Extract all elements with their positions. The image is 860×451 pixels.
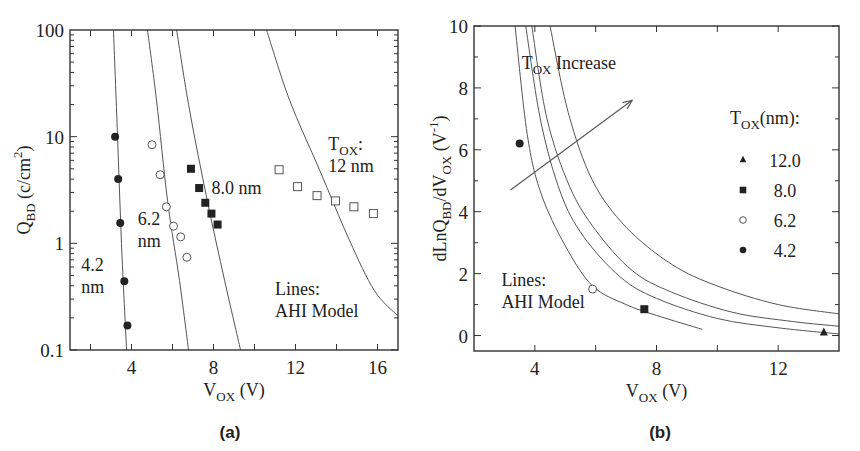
tox-increase-label: TOX Increase (522, 53, 616, 77)
marker-filled-circle (120, 277, 128, 285)
annotation-lines-note: Lines: (501, 270, 546, 290)
marker-filled-square (201, 199, 209, 207)
y-tick-label: 0 (459, 326, 469, 347)
x-tick-label: 8 (652, 358, 662, 379)
marker-open-circle (156, 171, 164, 179)
y-axis-title: QBD (c/cm2) (10, 145, 38, 234)
x-tick-label: 4 (127, 357, 137, 378)
marker-filled-triangle (820, 327, 828, 335)
marker-open-circle (170, 222, 178, 230)
annotation-label-42: 4.2 (81, 255, 104, 275)
y-tick-label: 10 (449, 16, 468, 37)
annotation-lines-note: AHI Model (501, 292, 585, 312)
x-tick-label: 4 (530, 358, 540, 379)
marker-filled-square (187, 165, 195, 173)
legend-entry-label: 4.2 (774, 241, 797, 261)
marker-filled-square (195, 184, 203, 192)
marker-open-circle (162, 203, 170, 211)
model-line (147, 30, 188, 350)
marker-filled-triangle (740, 156, 747, 163)
marker-open-circle (183, 253, 191, 261)
y-tick-label: 2 (459, 264, 469, 285)
x-tick-label: 8 (209, 357, 219, 378)
marker-open-circle (148, 141, 156, 149)
y-tick-label: 100 (36, 20, 65, 41)
annotation-label-12: TOX: (328, 134, 363, 158)
marker-open-circle (740, 217, 747, 224)
y-tick-label: 1 (55, 233, 65, 254)
y-tick-label: 0.1 (40, 340, 64, 361)
model-line (113, 30, 126, 350)
annotation-lines-note: Lines: (275, 279, 320, 299)
marker-filled-circle (123, 321, 131, 329)
y-axis-title-group: dLnQBD/dVOX (V-1) (426, 115, 454, 261)
x-axis-title: VOX (V) (203, 380, 264, 404)
figure: 4812161001010.1VOX (V)QBD (c/cm2)4.2nm6.… (0, 0, 860, 451)
marker-filled-circle (111, 133, 119, 141)
annotation-label-80: 8.0 nm (211, 178, 261, 198)
y-tick-label: 4 (459, 202, 469, 223)
x-tick-label: 16 (368, 357, 387, 378)
marker-open-square (350, 203, 358, 211)
marker-open-square (294, 183, 302, 191)
chart-b-dlnqbd-vs-vox: 48120246810VOX (V)dLnQBD/dVOX (V-1)TOX I… (426, 16, 839, 442)
annotation-lines-note: AHI Model (275, 301, 359, 321)
legend-entry-label: 6.2 (774, 211, 797, 231)
y-tick-label: 10 (45, 127, 64, 148)
marker-open-square (275, 166, 283, 174)
y-tick-label: 6 (459, 140, 469, 161)
legend-entry-label: 8.0 (774, 181, 797, 201)
marker-open-circle (177, 233, 185, 241)
x-tick-label: 12 (769, 358, 788, 379)
legend-title: TOX(nm): (730, 108, 800, 132)
y-tick-label: 8 (459, 78, 469, 99)
x-axis-title: VOX (V) (626, 381, 687, 405)
panel-caption: (b) (649, 423, 671, 442)
annotation-label-62: 6.2 (138, 209, 161, 229)
marker-filled-square (207, 210, 215, 218)
marker-open-square (369, 210, 377, 218)
marker-filled-circle (116, 219, 124, 227)
y-axis-title: dLnQBD/dVOX (V-1) (426, 115, 454, 261)
annotation-label-62: nm (138, 231, 161, 251)
marker-open-square (331, 197, 339, 205)
y-axis-title-group: QBD (c/cm2) (10, 145, 38, 234)
annotation-label-12: 12 nm (328, 156, 374, 176)
marker-open-circle (589, 285, 597, 293)
marker-filled-circle (516, 140, 524, 148)
legend: TOX(nm):12.08.06.24.2 (730, 108, 801, 261)
annotation-label-42: nm (81, 277, 104, 297)
marker-filled-circle (114, 175, 122, 183)
marker-filled-square (640, 305, 648, 313)
panel-caption: (a) (220, 423, 241, 442)
marker-open-square (313, 192, 321, 200)
x-tick-label: 12 (286, 357, 305, 378)
marker-filled-circle (740, 247, 747, 254)
chart-a-qbd-vs-vox: 4812161001010.1VOX (V)QBD (c/cm2)4.2nm6.… (10, 20, 398, 442)
legend-entry-label: 12.0 (769, 151, 801, 171)
marker-filled-square (740, 187, 747, 194)
marker-filled-square (214, 221, 222, 229)
